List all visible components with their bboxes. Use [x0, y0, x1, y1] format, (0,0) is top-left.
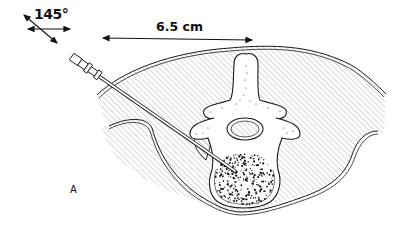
- needle-hub: [69, 52, 103, 80]
- angle-annotation: 145°: [34, 6, 68, 22]
- cross-section-drawing: [0, 0, 409, 229]
- diagram-figure: 145° 6.5 cm A: [0, 0, 409, 229]
- panel-label: A: [70, 184, 77, 195]
- distance-annotation: 6.5 cm: [156, 19, 203, 34]
- distance-arrow: [103, 38, 252, 40]
